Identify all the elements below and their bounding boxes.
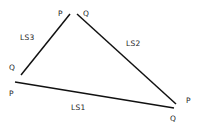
segment-label-ls3: LS3	[20, 33, 35, 42]
diagram-canvas: LS1 P Q LS2 Q P LS3 Q P	[0, 0, 201, 127]
line-segment-ls1	[15, 82, 174, 108]
endpoint-label-ls3-end: P	[58, 9, 63, 18]
endpoint-label-ls1-start: P	[9, 89, 14, 98]
segment-label-ls1: LS1	[71, 103, 86, 112]
endpoint-label-ls3-start: Q	[9, 63, 15, 72]
line-segment-ls2	[77, 14, 176, 104]
endpoint-label-ls1-end: Q	[170, 114, 176, 123]
line-segments-diagram: LS1 P Q LS2 Q P LS3 Q P	[0, 0, 201, 127]
segment-label-ls2: LS2	[126, 39, 141, 48]
line-segment-ls3	[21, 14, 70, 75]
endpoint-label-ls2-start: Q	[83, 9, 89, 18]
endpoint-label-ls2-end: P	[186, 96, 191, 105]
